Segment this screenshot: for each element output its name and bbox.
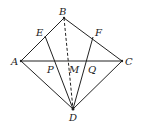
label-C: C <box>125 56 133 67</box>
label-M: M <box>68 64 80 75</box>
label-B: B <box>58 6 66 17</box>
point-A <box>20 60 22 62</box>
label-E: E <box>35 27 44 38</box>
label-Q: Q <box>88 64 96 75</box>
point-C <box>121 60 123 62</box>
label-P: P <box>46 64 54 75</box>
segment-CD <box>73 61 122 109</box>
point-B <box>63 17 65 19</box>
segment-BC <box>64 18 122 61</box>
label-A: A <box>10 56 18 67</box>
label-D: D <box>68 112 77 123</box>
point-D <box>72 108 75 111</box>
segment-AB <box>21 18 64 61</box>
geometry-diagram: B E F A C P M Q D <box>0 0 146 125</box>
label-F: F <box>94 27 103 38</box>
